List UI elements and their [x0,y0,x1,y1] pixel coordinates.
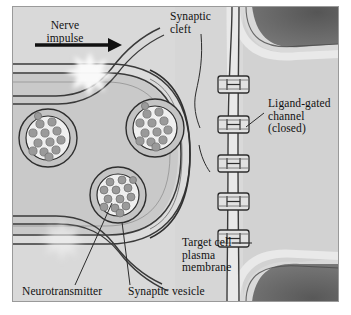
ligand-gated-channel [218,76,249,93]
ligand-gated-channel [218,155,249,172]
label-synaptic-cleft: Synaptic cleft [170,10,242,35]
diagram-canvas [0,0,351,315]
synaptic-vesicle [126,99,184,157]
ligand-gated-channel [218,116,249,133]
label-nerve-impulse: Nerve impulse [26,19,104,44]
synaptic-vesicle [19,109,77,167]
label-target-cell-plasma-membrane: Target cell plasma membrane [182,236,260,274]
synapse-diagram: Nerve impulse Synaptic cleft Ligand-gate… [0,0,351,315]
label-neurotransmitter: Neurotransmitter [22,285,102,298]
label-synaptic-vesicle: Synaptic vesicle [128,285,205,298]
label-ligand-gated-channel: Ligand-gated channel (closed) [268,97,351,135]
ligand-gated-channel [218,193,249,210]
synaptic-vesicle [90,167,146,223]
